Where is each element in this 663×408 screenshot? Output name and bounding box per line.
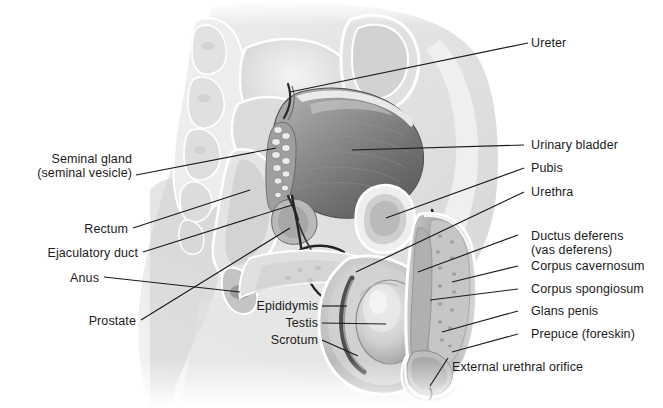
anatomy-illustration <box>0 0 663 408</box>
label-glans-penis: Glans penis <box>531 304 598 318</box>
label-rectum: Rectum <box>20 222 128 236</box>
label-corpus-cavernosum: Corpus cavernosum <box>531 259 645 273</box>
label-external-urethral-orifice: External urethral orifice <box>452 360 583 374</box>
label-ureter: Ureter <box>531 36 566 50</box>
label-urinary-bladder: Urinary bladder <box>531 138 618 152</box>
anatomy-figure-page: Seminal gland (seminal vesicle) Rectum E… <box>0 0 663 408</box>
label-ductus-deferens-line1: Ductus deferens <box>531 229 624 243</box>
label-prepuce: Prepuce (foreskin) <box>531 327 635 341</box>
label-seminal-gland: Seminal gland (seminal vesicle) <box>20 152 132 180</box>
label-ejaculatory-duct: Ejaculatory duct <box>8 246 138 260</box>
label-prostate: Prostate <box>20 314 136 328</box>
label-seminal-gland-line2: (seminal vesicle) <box>20 166 132 180</box>
label-scrotum: Scrotum <box>190 333 318 347</box>
pubis <box>356 185 415 253</box>
label-corpus-spongiosum: Corpus spongiosum <box>531 282 644 296</box>
label-urethra: Urethra <box>531 185 573 199</box>
label-ductus-deferens: Ductus deferens (vas deferens) <box>531 229 624 257</box>
label-seminal-gland-line1: Seminal gland <box>20 152 132 166</box>
label-testis: Testis <box>190 316 318 330</box>
label-anus: Anus <box>20 271 99 285</box>
label-pubis: Pubis <box>531 161 563 175</box>
label-ductus-deferens-line2: (vas deferens) <box>531 243 624 257</box>
label-epididymis: Epididymis <box>190 299 318 313</box>
